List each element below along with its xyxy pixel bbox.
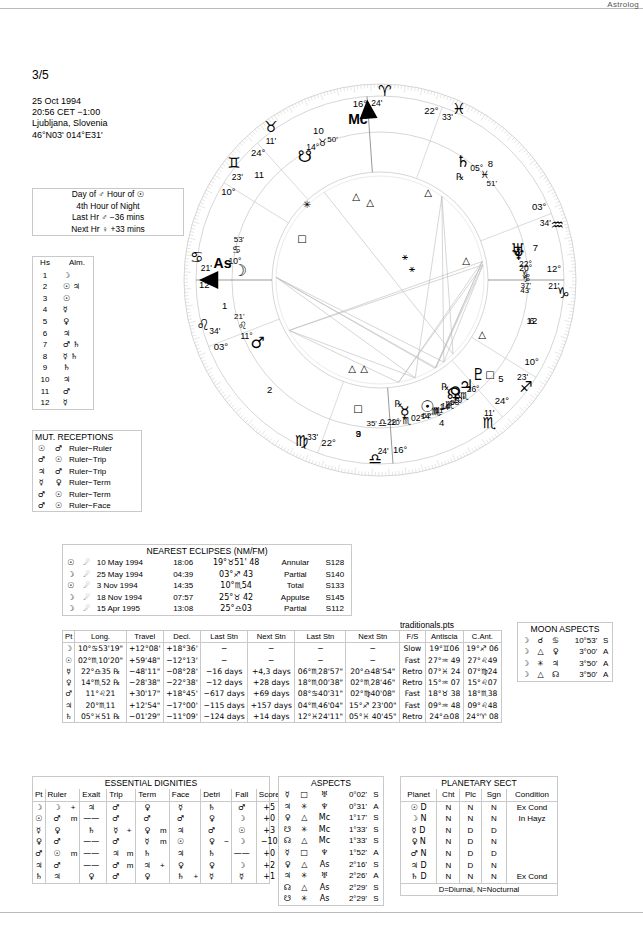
reception-type: Ruler−Term — [67, 489, 141, 500]
almuten-glyph: ☉ ♃ — [57, 281, 93, 293]
degree-tick — [472, 448, 474, 452]
orb: 10°53' — [563, 635, 599, 646]
planet-sign-mercury: ♎ — [378, 417, 387, 428]
planet-glyph-saturn: ♄ — [456, 152, 470, 171]
reception-type: Ruler−Face — [67, 500, 141, 511]
degree-tick — [238, 413, 241, 416]
chart-sect: N — [437, 848, 460, 860]
planet-glyph: ♄ — [33, 871, 45, 883]
longitude: 02°♏10'20" — [75, 655, 126, 666]
triplicity-marker — [125, 801, 136, 813]
cusp-sign-glyph: ♉ — [264, 118, 277, 135]
eclipse-time: 04:39 — [166, 569, 200, 581]
last-station: − — [201, 643, 248, 655]
sign-sect: N — [481, 860, 506, 872]
degree-tick — [355, 467, 356, 474]
degree-tick — [225, 395, 231, 399]
degree-tick — [409, 470, 410, 474]
traditionals-row: ☿22°♎35 ℞−48'11"−08°28'−16 days+4,3 days… — [63, 666, 501, 677]
degree-tick — [560, 211, 564, 212]
orb: 1°33' — [336, 835, 369, 847]
degree-tick — [218, 169, 221, 171]
fall: ☽ — [231, 836, 252, 848]
degree-tick — [558, 208, 562, 209]
table-footer-row: D=Diurnal, N=Nocturnal — [401, 883, 557, 895]
declination: −08°28' — [163, 666, 200, 677]
triplicity: ♂ — [107, 813, 125, 825]
last-station: −12 days — [201, 677, 248, 688]
degree-tick — [252, 131, 255, 134]
moon-aspects-box: MOON ASPECTS ☽☌♋10°53'S☽△♀3°00'A☽✳♃3°50'… — [517, 622, 613, 682]
degree-tick — [194, 218, 198, 219]
degree-tick — [530, 158, 533, 160]
planet-degree-moon: 10° — [228, 256, 241, 266]
column-header: Travel — [126, 631, 163, 643]
detriment-marker: − — [222, 836, 231, 848]
degree-tick — [327, 91, 328, 95]
column-header: Cht — [437, 789, 460, 801]
orb: 1°17' — [336, 812, 369, 824]
condition — [506, 836, 557, 848]
fast-slow: Fast — [400, 700, 426, 711]
degree-tick — [186, 309, 190, 310]
degree-tick — [435, 464, 436, 468]
applying-separating: A — [599, 646, 612, 657]
degree-tick — [441, 462, 442, 466]
degree-tick — [186, 305, 193, 306]
last-station: −617 days — [201, 688, 248, 699]
degree-tick — [314, 95, 315, 99]
degree-tick — [419, 468, 420, 472]
degree-tick — [549, 371, 553, 373]
luminary-glyph: ☽ — [63, 603, 79, 615]
orb: 2°26' — [336, 870, 369, 882]
degree-tick — [504, 131, 507, 134]
degree-tick — [305, 99, 308, 105]
degree-tick — [210, 375, 213, 377]
almuten-glyph: ☿ — [57, 304, 93, 316]
contra-antiscia: 09°♌48 — [463, 700, 501, 711]
exaltation: —— — [80, 836, 102, 848]
reception-type: Ruler−Ruler — [67, 443, 141, 454]
degree-tick — [421, 464, 423, 471]
degree-tick — [555, 359, 559, 361]
planet-glyph: ♀ — [33, 836, 45, 848]
house-number: 9 — [33, 362, 57, 374]
house-number: 1 — [222, 300, 227, 311]
aspect-row: ♀△Mc1°17'S — [279, 812, 383, 824]
point-b-glyph: ♅ — [313, 789, 336, 801]
point-a-glyph: ☋ — [279, 893, 296, 905]
next-station-pos: 20°♎48'54" — [346, 666, 400, 677]
point-b-glyph: As — [313, 893, 336, 905]
luminary-glyph: ☽ — [63, 592, 79, 604]
degree-tick — [264, 435, 266, 438]
degree-tick — [445, 461, 446, 465]
degree-tick — [524, 407, 527, 410]
degree-tick — [564, 237, 571, 239]
aspect-line — [289, 261, 482, 330]
eclipse-kind: Appulse — [272, 592, 319, 604]
applying-separating: S — [599, 635, 612, 646]
degree-tick — [460, 455, 462, 459]
traditionals-row: ♄05°♓51 ℞−01'29"−11°09'−124 days+14 days… — [63, 711, 501, 722]
degree-tick — [554, 362, 558, 364]
next-station: +14 days — [248, 711, 295, 722]
term-marker: m — [158, 825, 169, 837]
chart-sect: N — [437, 825, 460, 837]
sect-row: ♀ NNDN — [401, 836, 557, 848]
planet-sign-pluto: ♏ — [460, 390, 469, 401]
eclipse-position: 25°♎03 — [200, 603, 272, 615]
degree-tick — [322, 460, 324, 467]
degree-tick — [192, 225, 196, 226]
almuten-row: 1☽ — [33, 270, 93, 282]
exaltation: ♀ — [80, 871, 102, 883]
astrology-chart-wheel: 12°21'♋1As03°34'♌222°33'♍316°24'♎424°11'… — [160, 60, 600, 500]
page-number: 3/5 — [32, 68, 49, 82]
aspect-symbol: △ — [366, 197, 374, 208]
column-header: Planet — [401, 789, 437, 801]
planet-retrograde-saturn: ℞ — [456, 172, 464, 182]
contra-antiscia: 19°♐ 06 — [463, 643, 501, 655]
degree-tick — [290, 448, 293, 454]
planet-minute-neptune: 43' — [520, 286, 531, 295]
column-header: Antiscia — [425, 631, 463, 643]
eclipse-type-glyph: ☄ — [79, 569, 95, 581]
